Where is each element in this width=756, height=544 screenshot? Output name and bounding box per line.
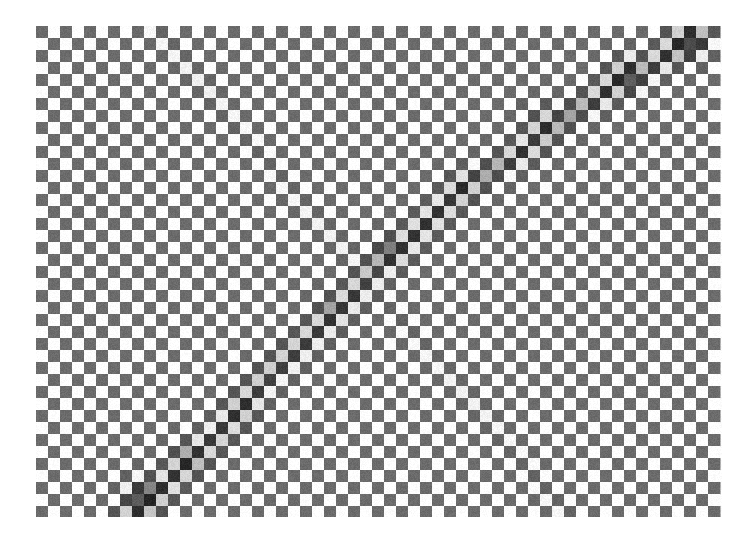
figure-page — [0, 0, 756, 544]
recurrence-plot-canvas — [36, 26, 722, 517]
recurrence-plot-figure — [0, 0, 756, 544]
